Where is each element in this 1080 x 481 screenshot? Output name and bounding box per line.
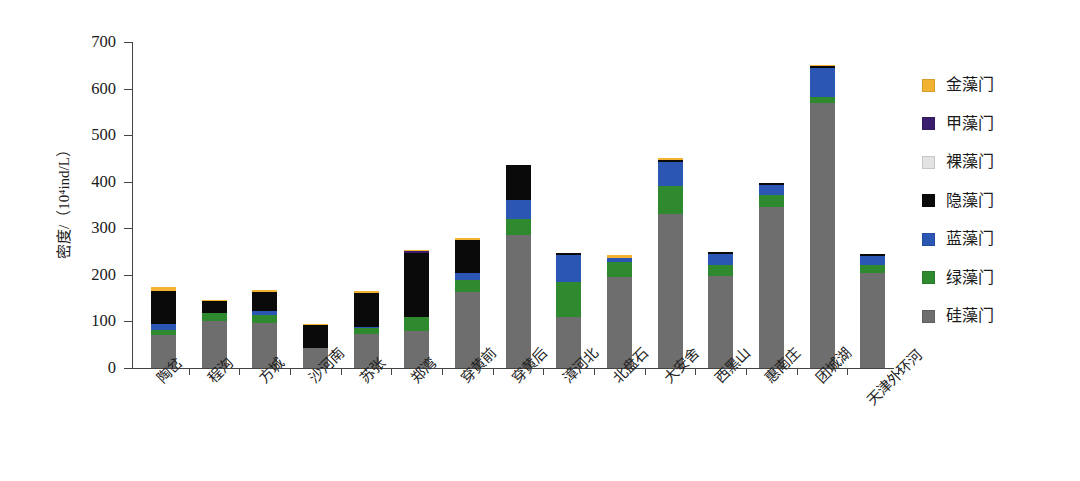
legend-item[interactable]: 绿藻门: [922, 259, 1072, 298]
legend-item[interactable]: 甲藻门: [922, 105, 1072, 144]
legend-item[interactable]: 金藻门: [922, 66, 1072, 105]
legend-label: 绿藻门: [946, 270, 994, 286]
bar-segment: [556, 255, 581, 282]
legend-item[interactable]: 裸藻门: [922, 143, 1072, 182]
bar-segment: [860, 256, 885, 264]
bar-segment: [658, 162, 683, 187]
y-tick-mark: [124, 42, 132, 43]
bar-segment: [202, 301, 227, 313]
bar-stack[interactable]: [658, 158, 683, 368]
bar-segment: [658, 214, 683, 368]
y-tick-label: 500: [60, 127, 116, 143]
y-tick-mark: [124, 89, 132, 90]
legend-item[interactable]: 隐藻门: [922, 182, 1072, 221]
legend-label: 甲藻门: [946, 116, 994, 132]
y-tick-mark: [124, 368, 132, 369]
chart-legend: 金藻门甲藻门裸藻门隐藻门蓝藻门绿藻门硅藻门: [922, 66, 1072, 336]
bar-stack[interactable]: [860, 254, 885, 368]
y-tick-mark: [124, 275, 132, 276]
legend-color-swatch: [922, 233, 935, 246]
y-tick-mark: [124, 228, 132, 229]
bar-segment: [455, 240, 480, 273]
y-tick-mark: [124, 182, 132, 183]
legend-color-swatch: [922, 310, 935, 323]
y-tick-mark: [124, 135, 132, 136]
bar-segment: [708, 265, 733, 277]
bar-segment: [506, 235, 531, 368]
bar-stack[interactable]: [506, 165, 531, 368]
legend-item[interactable]: 硅藻门: [922, 297, 1072, 336]
legend-label: 蓝藻门: [946, 231, 994, 247]
bar-segment: [708, 254, 733, 265]
y-tick-label: 200: [60, 267, 116, 283]
bar-segment: [506, 165, 531, 200]
legend-label: 裸藻门: [946, 154, 994, 170]
legend-color-swatch: [922, 194, 935, 207]
y-tick-mark: [124, 321, 132, 322]
bar-stack[interactable]: [455, 238, 480, 368]
bar-segment: [404, 253, 429, 317]
legend-label: 金藻门: [946, 77, 994, 93]
bar-stack[interactable]: [404, 250, 429, 368]
bar-segment: [860, 273, 885, 368]
bar-segment: [303, 325, 328, 348]
legend-label: 隐藻门: [946, 193, 994, 209]
legend-color-swatch: [922, 117, 935, 130]
bar-segment: [759, 185, 784, 195]
bar-segment: [252, 315, 277, 322]
legend-color-swatch: [922, 271, 935, 284]
legend-item[interactable]: 蓝藻门: [922, 220, 1072, 259]
bar-segment: [506, 200, 531, 219]
y-tick-label: 400: [60, 174, 116, 190]
y-tick-label: 100: [60, 313, 116, 329]
bar-segment: [404, 317, 429, 331]
bar-segment: [810, 103, 835, 368]
legend-label: 硅藻门: [946, 308, 994, 324]
plot-area: 0100200300400500600700: [132, 42, 892, 368]
legend-color-swatch: [922, 79, 935, 92]
y-tick-label: 300: [60, 220, 116, 236]
legend-color-swatch: [922, 156, 935, 169]
bar-segment: [607, 262, 632, 277]
bar-segment: [252, 292, 277, 311]
bar-segment: [354, 293, 379, 327]
bar-segment: [556, 282, 581, 317]
y-tick-label: 700: [60, 34, 116, 50]
bar-segment: [658, 186, 683, 214]
bar-segment: [810, 68, 835, 97]
bar-segment: [759, 207, 784, 368]
bar-segment: [455, 273, 480, 280]
bar-segment: [455, 280, 480, 293]
bar-segment: [506, 219, 531, 235]
bar-segment: [202, 313, 227, 321]
bar-stack[interactable]: [810, 65, 835, 368]
x-axis-labels: 陶岔程沟方城沙河南苏张郑湾穿黄前穿黄后漳河北北盘石大安舍西黑山惠南庄团城湖天津外…: [132, 372, 922, 477]
y-tick-label: 0: [60, 360, 116, 376]
y-axis-line: [132, 42, 133, 369]
bar-segment: [759, 195, 784, 208]
bar-segment: [860, 265, 885, 273]
bar-stack[interactable]: [759, 183, 784, 368]
chart-figure: 密度/（10⁴ind/L） 0100200300400500600700 陶岔程…: [0, 0, 1080, 481]
y-tick-label: 600: [60, 81, 116, 97]
bar-segment: [151, 291, 176, 324]
